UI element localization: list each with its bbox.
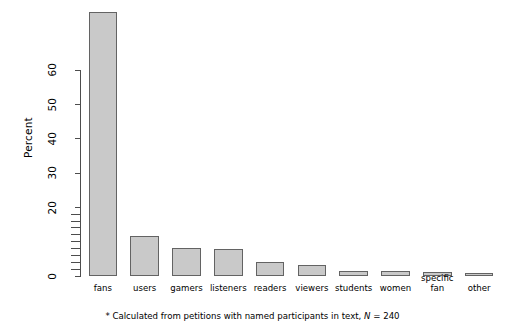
x-axis-tick-label-line: specific [416, 273, 458, 283]
x-axis-tick-label: viewers [291, 283, 333, 293]
y-axis-tick-label: 50 [46, 98, 72, 111]
bar[interactable] [89, 12, 117, 276]
x-axis-tick-label: users [124, 283, 166, 293]
y-axis-minor-tick [71, 234, 80, 235]
y-axis-tick-label: 40 [46, 132, 72, 145]
bar[interactable] [130, 236, 158, 276]
bar[interactable] [214, 249, 242, 276]
bar-slot[interactable] [130, 0, 158, 277]
x-axis-tick-label-line: women [375, 283, 417, 293]
bar[interactable] [298, 265, 326, 276]
x-axis-tick-label-line: viewers [291, 283, 333, 293]
x-axis-tick-label: fans [82, 283, 124, 293]
x-axis-tick-label: women [375, 283, 417, 293]
y-axis-minor-tick [71, 255, 80, 256]
bar-chart: Percent 02030405060 fansusersgamersliste… [0, 0, 505, 331]
chart-footnote: * Calculated from petitions with named p… [0, 311, 505, 321]
y-axis-minor-tick [71, 227, 80, 228]
y-axis-minor-tick [71, 248, 80, 249]
y-axis-tick [75, 173, 80, 174]
y-axis-minor-tick [71, 241, 80, 242]
plot-area [82, 0, 500, 277]
x-axis-tick-label-line: fans [82, 283, 124, 293]
x-axis-tick-label: other [458, 283, 500, 293]
y-axis-line [80, 70, 81, 277]
x-axis-tick-label-line: users [124, 283, 166, 293]
footnote-suffix: = 240 [371, 311, 400, 321]
bar[interactable] [339, 271, 367, 276]
bar-slot[interactable] [465, 0, 493, 277]
y-axis-tick-label: 60 [46, 63, 72, 76]
y-axis-tick-label-wrap: 0 [46, 269, 72, 283]
bar-slot[interactable] [172, 0, 200, 277]
y-axis-tick-label-wrap: 40 [46, 132, 72, 146]
y-axis-tick-label-wrap: 50 [46, 97, 72, 111]
x-axis-tick-label-line: gamers [166, 283, 208, 293]
y-axis-minor-tick [71, 214, 80, 215]
y-axis-minor-tick [71, 262, 80, 263]
y-axis-tick-label: 20 [46, 201, 72, 214]
y-axis-tick-label: 30 [46, 166, 72, 179]
bar-slot[interactable] [256, 0, 284, 277]
x-axis-tick-labels: fansusersgamerslistenersreadersviewersst… [82, 283, 500, 309]
bar[interactable] [172, 248, 200, 276]
x-axis-tick-label: specificfan [416, 273, 458, 293]
y-axis-tick [75, 207, 80, 208]
bar-slot[interactable] [423, 0, 451, 277]
y-axis-tick-label-wrap: 30 [46, 166, 72, 180]
y-axis-tick [75, 104, 80, 105]
y-axis-minor-tick [71, 221, 80, 222]
y-axis-tick [75, 70, 80, 71]
x-axis-tick-label: students [333, 283, 375, 293]
x-axis-tick-label: readers [249, 283, 291, 293]
bar-slot[interactable] [89, 0, 117, 277]
y-axis-tick-label-wrap: 20 [46, 200, 72, 214]
bar-slot[interactable] [339, 0, 367, 277]
x-axis-tick-label-line: readers [249, 283, 291, 293]
bar[interactable] [256, 262, 284, 276]
bar-slot[interactable] [298, 0, 326, 277]
footnote-prefix: * Calculated from petitions with named p… [105, 311, 364, 321]
bar[interactable] [381, 271, 409, 276]
bar-slot[interactable] [381, 0, 409, 277]
x-axis-tick-label-line: other [458, 283, 500, 293]
y-axis-title: Percent [18, 0, 38, 276]
y-axis-tick-label-wrap: 60 [46, 63, 72, 77]
x-axis-tick-label: gamers [166, 283, 208, 293]
y-axis-tick-label: 0 [46, 273, 72, 280]
x-axis-tick-label: listeners [207, 283, 249, 293]
x-axis-tick-label-line: students [333, 283, 375, 293]
bar[interactable] [465, 273, 493, 276]
x-axis-tick-label-line: listeners [207, 283, 249, 293]
x-axis-tick-label-line: fan [416, 283, 458, 293]
y-axis-tick [75, 138, 80, 139]
y-axis-tick [75, 276, 80, 277]
y-axis-minor-tick [71, 269, 80, 270]
bar-slot[interactable] [214, 0, 242, 277]
